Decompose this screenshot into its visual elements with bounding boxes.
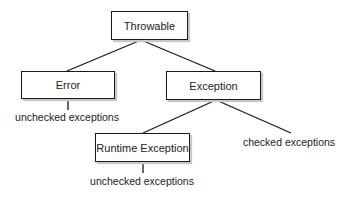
node-runtime-exception-label: Runtime Exception <box>96 142 188 154</box>
node-throwable: Throwable <box>111 11 188 40</box>
edge-throwable-exception <box>141 40 215 71</box>
node-runtime-exception: Runtime Exception <box>95 133 190 162</box>
runtime-unchecked-label: unchecked exceptions <box>90 175 194 187</box>
checked-exceptions-label: checked exceptions <box>243 136 335 148</box>
error-unchecked-label: unchecked exceptions <box>15 111 119 123</box>
edge-exception-runtime <box>143 100 216 133</box>
node-error-label: Error <box>56 79 80 91</box>
edge-throwable-error <box>67 40 141 71</box>
edge-exception-checked <box>216 100 291 133</box>
node-throwable-label: Throwable <box>124 20 175 32</box>
node-error: Error <box>21 71 115 99</box>
node-exception: Exception <box>166 71 261 100</box>
node-exception-label: Exception <box>189 80 237 92</box>
